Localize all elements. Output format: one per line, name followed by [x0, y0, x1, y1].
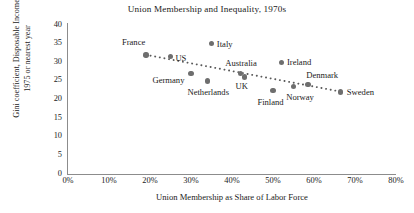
- data-point: [270, 88, 275, 93]
- point-label: Norway: [286, 92, 314, 101]
- point-label: Netherlands: [187, 88, 229, 97]
- point-label: Italy: [217, 39, 233, 48]
- point-label: France: [122, 37, 145, 46]
- data-point: [338, 89, 343, 94]
- point-label: Germany: [152, 75, 184, 84]
- point-label: Denmark: [306, 71, 338, 80]
- point-label: Finland: [257, 98, 283, 107]
- data-point: [279, 60, 284, 65]
- point-label: UK: [236, 82, 248, 91]
- point-label: Australia: [225, 58, 257, 67]
- point-label: Sweden: [347, 88, 374, 97]
- data-point: [305, 82, 310, 87]
- data-point: [205, 78, 210, 83]
- data-point: [143, 52, 148, 57]
- data-point: [242, 74, 247, 79]
- point-label: US: [175, 53, 186, 62]
- data-point: [188, 71, 193, 76]
- scatter-chart: Union Membership and Inequality, 1970s G…: [0, 0, 414, 213]
- x-axis-title: Union Membership as Share of Labor Force: [68, 192, 396, 202]
- point-label: Ireland: [287, 58, 311, 67]
